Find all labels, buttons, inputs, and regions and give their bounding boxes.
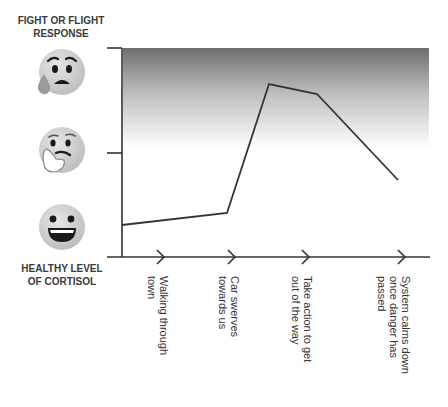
x-label-take-action: Take action to get out of the way <box>290 276 314 362</box>
x-label-walking-through-town: Walking through town <box>146 276 170 355</box>
x-label-system-calms: System calms down once danger has passed <box>376 276 412 374</box>
x-label-line: Walking through <box>158 276 170 355</box>
x-label-line: Car swerves <box>229 276 241 337</box>
anxious-sweat-face-icon <box>38 49 85 95</box>
x-label-line: System calms down <box>400 276 412 374</box>
stress-gradient-area <box>123 48 429 148</box>
thinking-face-icon <box>39 127 85 173</box>
x-label-car-swerves: Car swerves towards us <box>217 276 241 337</box>
grinning-face-icon <box>39 204 85 250</box>
x-label-line: towards us <box>217 276 229 337</box>
x-label-line: Take action to get <box>302 276 314 362</box>
x-label-line: town <box>146 276 158 355</box>
x-label-line: passed <box>376 276 388 374</box>
x-label-line: out of the way <box>290 276 302 362</box>
x-label-line: once danger has <box>388 276 400 374</box>
